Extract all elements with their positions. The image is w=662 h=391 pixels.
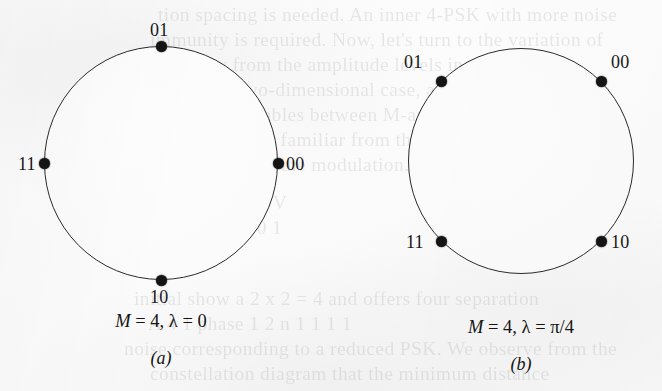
caption-symbol-M-b: M	[468, 317, 483, 337]
signal-point-a-00	[273, 158, 284, 169]
panel-letter-a: (a)	[31, 348, 291, 369]
signal-point-a-10	[156, 275, 167, 286]
signal-point-b-10	[596, 236, 607, 247]
constellation-circle-a	[44, 46, 278, 280]
signal-point-a-11	[39, 158, 50, 169]
signal-point-label-a-10: 10	[150, 288, 168, 306]
panel-caption-b: M = 4, λ = π/4	[391, 316, 651, 339]
figure-page: tion spacing is needed. An inner 4-PSK w…	[0, 0, 662, 391]
caption-symbol-M-a: M	[115, 311, 130, 331]
signal-point-a-01	[156, 41, 167, 52]
panel-letter-b: (b)	[391, 354, 651, 375]
signal-point-label-a-01: 01	[150, 21, 168, 39]
signal-point-label-b-01: 01	[404, 53, 422, 71]
signal-point-label-b-11: 11	[406, 233, 424, 251]
signal-point-b-11	[436, 236, 447, 247]
signal-point-b-00	[596, 76, 607, 87]
panel-caption-a: M = 4, λ = 0	[31, 310, 291, 333]
caption-params-a: = 4, λ = 0	[131, 311, 207, 331]
signal-point-label-a-00: 00	[286, 155, 304, 173]
signal-point-label-a-11: 11	[18, 155, 36, 173]
caption-params-b: = 4, λ = π/4	[483, 317, 574, 337]
signal-point-label-b-00: 00	[611, 53, 629, 71]
signal-point-b-01	[436, 76, 447, 87]
signal-point-label-b-10: 10	[611, 233, 629, 251]
